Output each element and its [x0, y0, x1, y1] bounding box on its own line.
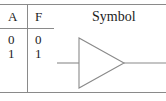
- table-cell-f-row0: 0: [35, 33, 42, 46]
- table-cell-a-row0: 0: [8, 33, 15, 46]
- table-cell-a-row1: 1: [8, 47, 15, 60]
- gate-triangle-body: [79, 38, 124, 88]
- symbol-column-heading: Symbol: [92, 9, 136, 24]
- buffer-gate-icon: [52, 33, 166, 92]
- table-column-divider: [27, 4, 28, 93]
- table-bottom-rule: [0, 92, 166, 93]
- column-header-f: F: [35, 10, 42, 23]
- column-header-a: A: [8, 10, 17, 23]
- table-cell-f-row1: 1: [35, 47, 42, 60]
- gate-truth-table-figure: A F 0 0 1 1 Symbol: [0, 0, 166, 101]
- table-top-rule: [0, 4, 166, 5]
